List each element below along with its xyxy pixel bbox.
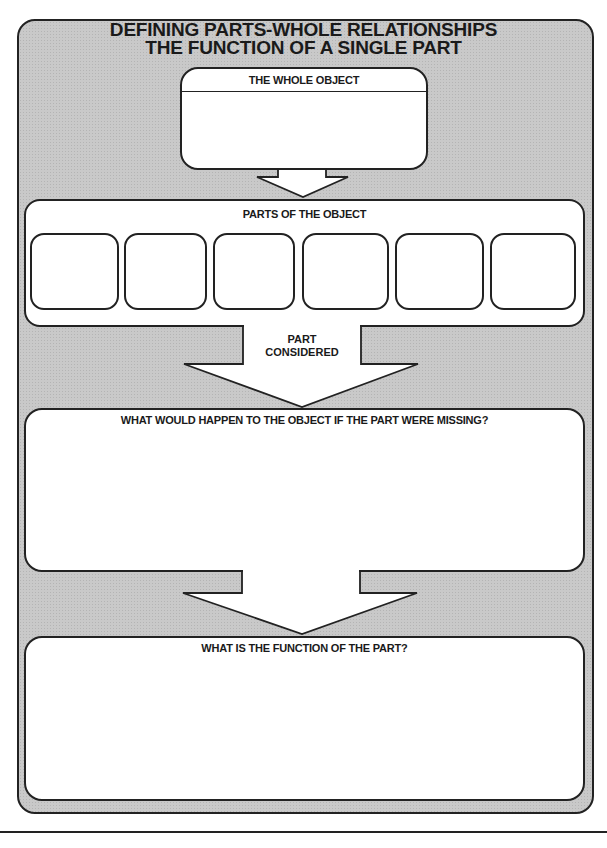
function-box[interactable]: WHAT IS THE FUNCTION OF THE PART? xyxy=(24,636,585,801)
function-label: WHAT IS THE FUNCTION OF THE PART? xyxy=(26,642,583,654)
bottom-rule xyxy=(0,831,607,833)
function-value[interactable] xyxy=(36,662,573,789)
